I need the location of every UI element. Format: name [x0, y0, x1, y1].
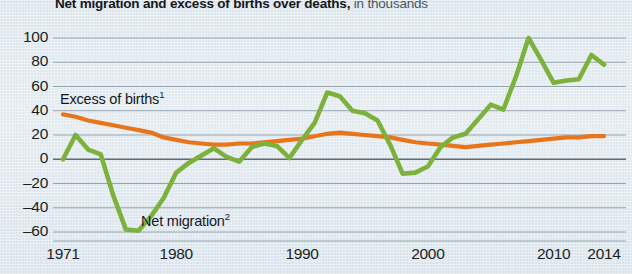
y-axis-tick-label: –60 [2, 222, 48, 240]
x-axis-tick-label: 2014 [574, 245, 632, 263]
y-axis-tick-label: 100 [2, 28, 48, 46]
x-axis-tick-label: 1971 [33, 245, 93, 263]
y-axis-tick-label: 0 [2, 149, 48, 167]
series-label-net-migration: Net migration2 [141, 211, 230, 229]
series-label-migration-text: Net migration [141, 213, 225, 229]
y-axis-tick-label: 60 [2, 77, 48, 95]
y-axis-tick-label: 40 [2, 101, 48, 119]
chart-plot-area [0, 0, 632, 274]
y-axis-tick-label: –40 [2, 198, 48, 216]
x-axis-tick-label: 2000 [398, 245, 458, 263]
line-excess-of-births [63, 114, 604, 147]
y-axis-tick-label: –20 [2, 174, 48, 192]
y-axis-tick-label: 80 [2, 52, 48, 70]
series-label-excess-of-births: Excess of births1 [60, 89, 164, 107]
x-axis-tick-label: 1980 [146, 245, 206, 263]
y-axis-tick-label: 20 [2, 125, 48, 143]
footnote-marker-1: 1 [159, 89, 164, 100]
series-label-excess-text: Excess of births [60, 91, 159, 107]
x-axis-tick-label: 1990 [272, 245, 332, 263]
footnote-marker-2: 2 [225, 211, 230, 222]
